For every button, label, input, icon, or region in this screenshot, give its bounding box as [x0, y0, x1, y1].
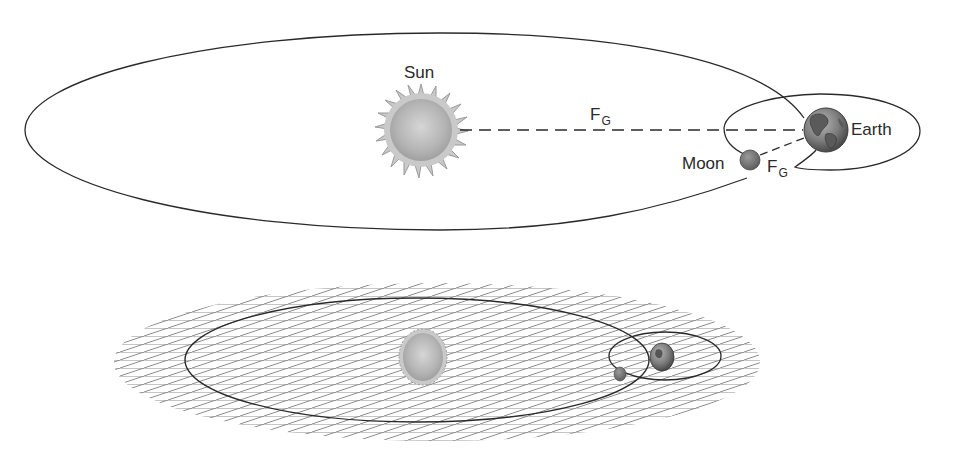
- top-diagram: [25, 33, 920, 230]
- force-symbol: F: [590, 105, 600, 124]
- sun-icon: [375, 84, 468, 178]
- force-line-earth-moon: [760, 138, 804, 155]
- moon-icon: [740, 150, 760, 170]
- force-subscript: G: [778, 166, 787, 180]
- force-label-earth-moon: FG: [767, 158, 787, 175]
- force-label-sun-earth: FG: [590, 106, 610, 123]
- moon-label: Moon: [682, 155, 725, 172]
- earth-label: Earth: [851, 121, 892, 138]
- bottom-diagram: [100, 280, 780, 450]
- gravity-orbit-diagram: Sun Earth Moon FG FG: [0, 0, 954, 460]
- earth-small-icon: [650, 343, 674, 371]
- earth-icon: [804, 108, 848, 152]
- moon-small-icon: [614, 367, 626, 381]
- force-subscript: G: [601, 114, 610, 128]
- force-symbol: F: [767, 157, 777, 176]
- sun-label: Sun: [404, 64, 434, 81]
- sun-small-icon: [399, 329, 447, 385]
- diagram-canvas: [0, 0, 954, 460]
